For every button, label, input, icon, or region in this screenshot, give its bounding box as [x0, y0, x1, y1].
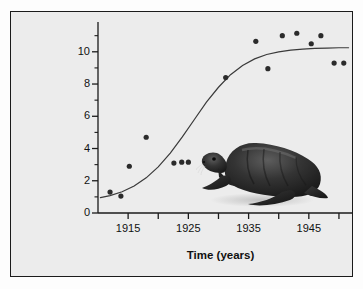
data-point — [253, 39, 258, 44]
figure-frame: Breeding male fur seals (thousands) Time… — [10, 11, 353, 277]
data-point — [144, 135, 149, 140]
seal-head — [202, 152, 227, 173]
y-tick-label: 10 — [54, 45, 90, 57]
seal-fore-flipper — [202, 175, 231, 190]
data-point — [280, 33, 285, 38]
x-axis-title: Time (years) — [88, 249, 353, 261]
fur-seal-illustration — [196, 130, 328, 210]
data-point — [341, 60, 346, 65]
seal-nostril — [203, 161, 205, 163]
data-point — [179, 160, 184, 165]
y-tick-label: 6 — [54, 109, 90, 121]
data-point — [186, 160, 191, 165]
x-tick-label: 1935 — [227, 222, 271, 234]
data-point — [127, 164, 132, 169]
data-point — [107, 189, 112, 194]
y-tick-label: 0 — [54, 206, 90, 218]
y-tick-label: 2 — [54, 174, 90, 186]
data-point — [294, 31, 299, 36]
data-point — [318, 33, 323, 38]
x-tick-label: 1925 — [166, 222, 210, 234]
seal-whiskers — [196, 164, 205, 175]
data-point — [309, 41, 314, 46]
y-tick-label: 8 — [54, 77, 90, 89]
y-tick-label: 4 — [54, 142, 90, 154]
x-tick-label: 1945 — [287, 222, 331, 234]
data-point — [332, 60, 337, 65]
data-point — [223, 75, 228, 80]
data-point — [171, 160, 176, 165]
data-point — [265, 66, 270, 71]
x-tick-label: 1915 — [106, 222, 150, 234]
seal-eye — [212, 157, 216, 160]
figure-page: Breeding male fur seals (thousands) Time… — [0, 0, 363, 289]
data-point — [118, 193, 123, 198]
